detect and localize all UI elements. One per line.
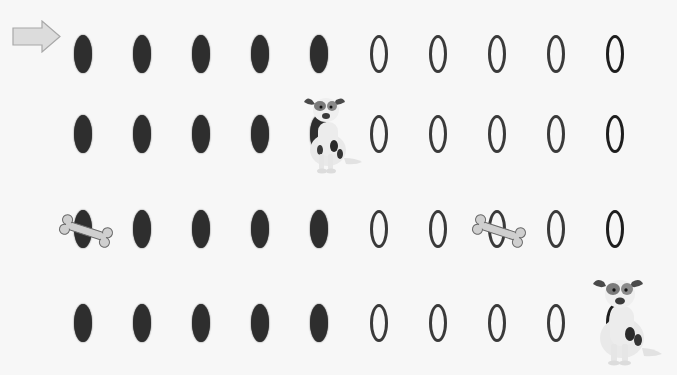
filled-oval (192, 304, 210, 342)
filled-oval (74, 304, 92, 342)
hollow-oval (606, 210, 624, 248)
hollow-oval (370, 35, 388, 73)
filled-oval (251, 35, 269, 73)
hollow-oval (370, 304, 388, 342)
hollow-oval (488, 304, 506, 342)
hollow-oval (370, 210, 388, 248)
filled-oval (74, 115, 92, 153)
filled-oval (251, 210, 269, 248)
filled-oval (310, 35, 328, 73)
filled-oval (133, 35, 151, 73)
hollow-oval (488, 35, 506, 73)
hollow-oval (547, 210, 565, 248)
filled-oval (133, 210, 151, 248)
dog-icon (584, 274, 664, 366)
hollow-oval (488, 115, 506, 153)
hollow-oval (429, 35, 447, 73)
bone-icon (56, 214, 116, 248)
filled-oval (310, 304, 328, 342)
dog-icon (298, 92, 364, 174)
counting-grid (0, 0, 677, 375)
hollow-oval (429, 210, 447, 248)
filled-oval (310, 210, 328, 248)
hollow-oval (606, 35, 624, 73)
hollow-oval (547, 304, 565, 342)
hollow-oval (547, 35, 565, 73)
filled-oval (133, 304, 151, 342)
filled-oval (192, 115, 210, 153)
hollow-oval (429, 115, 447, 153)
hollow-oval (370, 115, 388, 153)
hollow-oval (429, 304, 447, 342)
arrow-right-icon (12, 20, 62, 53)
filled-oval (251, 304, 269, 342)
bone-icon (469, 214, 529, 248)
filled-oval (192, 35, 210, 73)
filled-oval (251, 115, 269, 153)
hollow-oval (606, 115, 624, 153)
hollow-oval (547, 115, 565, 153)
filled-oval (192, 210, 210, 248)
filled-oval (74, 35, 92, 73)
filled-oval (133, 115, 151, 153)
